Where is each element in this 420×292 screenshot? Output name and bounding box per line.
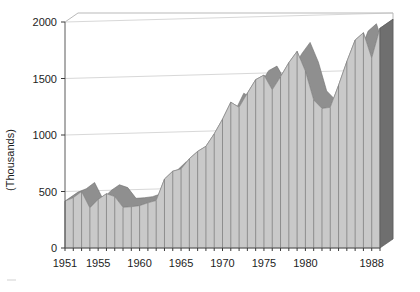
x-tick-label-1965: 1965 <box>169 257 193 269</box>
y-axis-title-text: (Thousands) <box>4 129 16 191</box>
chart-container: 0500100015002000 19511955196019651970197… <box>0 0 420 292</box>
y-tick-label-1500: 1500 <box>33 73 57 85</box>
corner-artifact <box>7 279 16 281</box>
x-tick-label-1975: 1975 <box>252 257 276 269</box>
x-tick-label-1951: 1951 <box>53 257 77 269</box>
area-right-face <box>380 19 393 248</box>
y-tick-label-1000: 1000 <box>33 129 57 141</box>
gridline-y-2000 <box>65 13 393 22</box>
y-tick-label-0: 0 <box>51 242 57 254</box>
y-axis-title: (Thousands) <box>4 129 16 191</box>
y-tick-label-500: 500 <box>39 186 57 198</box>
corner-artifact-mark <box>7 279 16 281</box>
x-axis-tick-labels: 19511955196019651970197519801988 <box>53 257 384 269</box>
y-tick-label-2000: 2000 <box>33 16 57 28</box>
x-tick-label-1960: 1960 <box>127 257 151 269</box>
area-chart: 0500100015002000 19511955196019651970197… <box>0 0 420 292</box>
x-tick-label-1980: 1980 <box>293 257 317 269</box>
y-axis-tick-labels: 0500100015002000 <box>33 16 57 254</box>
x-tick-label-1955: 1955 <box>86 257 110 269</box>
x-tick-label-1988: 1988 <box>359 257 383 269</box>
x-tick-label-1970: 1970 <box>210 257 234 269</box>
